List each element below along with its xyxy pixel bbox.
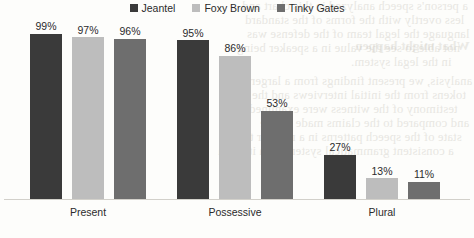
- axis-baseline: [4, 199, 470, 200]
- bar-slot[interactable]: 27%: [324, 18, 356, 200]
- bar-group-plural: 27% 13% 11%: [324, 18, 440, 200]
- plot-area: 99% 97% 96% 95% 86% 53%: [0, 18, 474, 200]
- legend-label: Jeantel: [142, 2, 176, 14]
- legend-item-jeantel[interactable]: Jeantel: [130, 2, 176, 14]
- bar-slot[interactable]: 99%: [30, 18, 62, 200]
- bar-slot[interactable]: 97%: [72, 18, 104, 200]
- bar-value-label: 96%: [119, 26, 140, 37]
- bar: [408, 182, 440, 200]
- bar-value-label: 53%: [266, 98, 287, 109]
- bar-value-label: 27%: [329, 142, 350, 153]
- bar-group-possessive: 95% 86% 53%: [177, 18, 293, 200]
- legend-swatch-icon: [192, 4, 200, 12]
- bar-slot[interactable]: 53%: [261, 18, 293, 200]
- bar-value-label: 11%: [414, 169, 434, 180]
- bar: [114, 39, 146, 200]
- bar-value-label: 13%: [371, 166, 392, 177]
- legend-item-foxy-brown[interactable]: Foxy Brown: [192, 2, 259, 14]
- bar-value-label: 86%: [224, 43, 245, 54]
- bar: [72, 37, 104, 200]
- legend-swatch-icon: [277, 4, 285, 12]
- chart-legend: Jeantel Foxy Brown Tinky Gates: [0, 2, 474, 14]
- bar-slot[interactable]: 86%: [219, 18, 251, 200]
- bar-chart: Jeantel Foxy Brown Tinky Gates 99% 97% 9…: [0, 0, 474, 238]
- category-axis: Present Possessive Plural: [0, 202, 474, 222]
- bar-value-label: 97%: [77, 25, 98, 36]
- legend-label: Tinky Gates: [289, 2, 345, 14]
- bar: [261, 111, 293, 200]
- category-label-possessive: Possessive: [177, 206, 293, 218]
- bar-group-present: 99% 97% 96%: [30, 18, 146, 200]
- bar: [219, 56, 251, 200]
- legend-swatch-icon: [130, 4, 138, 12]
- bar-slot[interactable]: 11%: [408, 18, 440, 200]
- legend-item-tinky-gates[interactable]: Tinky Gates: [277, 2, 345, 14]
- legend-label: Foxy Brown: [204, 2, 259, 14]
- category-label-plural: Plural: [324, 206, 440, 218]
- category-label-present: Present: [30, 206, 146, 218]
- bar-slot[interactable]: 95%: [177, 18, 209, 200]
- bar-slot[interactable]: 96%: [114, 18, 146, 200]
- bar: [366, 178, 398, 200]
- bar: [177, 40, 209, 200]
- bar-value-label: 99%: [35, 21, 56, 32]
- bar: [324, 155, 356, 200]
- bar-slot[interactable]: 13%: [366, 18, 398, 200]
- bar: [30, 34, 62, 200]
- bar-value-label: 95%: [182, 28, 203, 39]
